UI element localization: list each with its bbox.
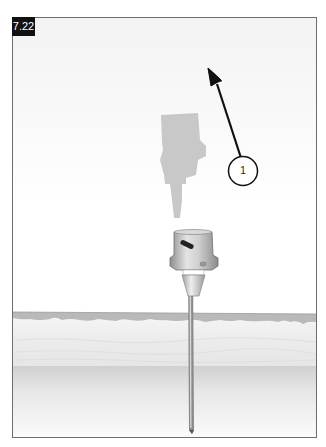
needle-illustration (0, 0, 326, 447)
callout-number: 1 (228, 156, 258, 186)
subcutaneous-layer (13, 365, 316, 437)
needle-hub (170, 230, 218, 297)
withdraw-arrow (208, 68, 241, 158)
ghost-syringe-hub (160, 113, 206, 218)
figure-number-label: 7.22 (12, 17, 35, 36)
figure-canvas: 7.22 (0, 0, 326, 447)
